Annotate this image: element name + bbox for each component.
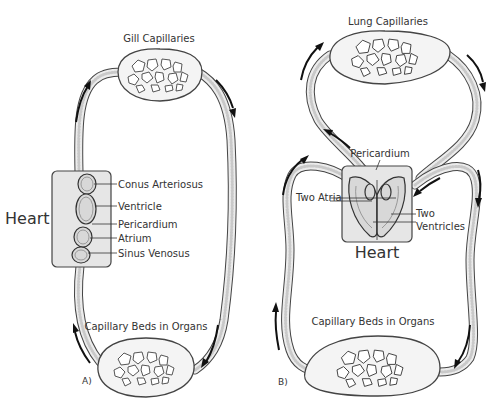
two-ventricles-label-line1: Two [415,208,435,219]
label-ventricle: Ventricle [118,201,162,212]
label-atrium: Atrium [118,233,152,244]
lung-capillaries [330,31,450,84]
gill-capillaries [118,49,202,101]
heart-label-b: Heart [355,243,400,262]
lung-capillaries-label: Lung Capillaries [348,16,428,27]
vessel-to-gills [79,72,122,172]
organ-capillary-beds-b [305,336,440,396]
arrow-up-bottom-b [272,302,279,350]
panel-b-mammal-circulation: Lung Capillaries Capillary Beds in Organ… [272,16,486,396]
fish-heart [52,171,117,267]
panel-a-fish-circulation: Gill Capillaries Capillary Beds in Organ… [5,33,236,397]
two-ventricles-label-line2: Ventricles [416,221,465,232]
organ-capillaries-label-b: Capillary Beds in Organs [311,316,434,327]
mammal-heart [330,160,416,242]
organ-capillary-beds-a [98,338,194,397]
label-conus-arteriosus: Conus Arteriosus [118,179,203,190]
label-sinus-venosus: Sinus Venosus [118,248,190,259]
panel-label-a: A) [82,376,92,386]
organ-capillaries-label-a: Capillary Beds in Organs [84,321,207,332]
panel-label-b: B) [278,377,288,387]
heart-label-a: Heart [5,209,50,228]
two-atria-label: Two Atria [295,192,342,203]
circulation-diagram: Gill Capillaries Capillary Beds in Organ… [0,0,497,407]
label-pericardium-a: Pericardium [118,219,177,230]
gill-capillaries-label: Gill Capillaries [123,33,194,44]
pericardium-label-b: Pericardium [350,148,409,159]
